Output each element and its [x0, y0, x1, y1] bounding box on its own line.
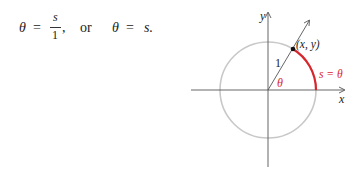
angle-label: θ [277, 76, 283, 90]
point-xy [291, 47, 296, 52]
radius-label: 1 [275, 56, 281, 70]
unit-circle-figure: y x (x, y) 1 θ s = θ [0, 0, 355, 171]
point-label: (x, y) [296, 38, 320, 51]
x-axis-label: x [338, 92, 345, 106]
y-axis-label: y [259, 9, 266, 23]
arc-length-s [293, 49, 317, 90]
arc-label: s = θ [319, 68, 343, 80]
